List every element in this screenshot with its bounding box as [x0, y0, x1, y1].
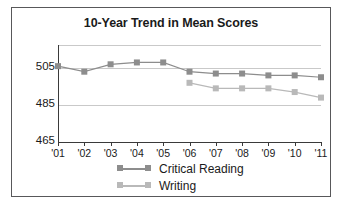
data-point-marker: [213, 85, 219, 91]
series-line: [190, 83, 322, 98]
legend-item[interactable]: Critical Reading: [12, 160, 332, 177]
data-point-marker: [187, 80, 193, 86]
legend-label: Writing: [159, 179, 196, 193]
data-point-marker: [292, 72, 298, 78]
data-point-marker: [81, 69, 87, 75]
data-point-marker: [134, 59, 140, 65]
data-point-marker: [160, 59, 166, 65]
legend-swatch-icon: [117, 181, 151, 190]
data-point-marker: [239, 85, 245, 91]
chart-legend: Critical ReadingWriting: [12, 160, 332, 194]
data-point-marker: [213, 71, 219, 77]
legend-item[interactable]: Writing: [12, 177, 332, 194]
data-point-marker: [265, 72, 271, 78]
data-point-marker: [318, 95, 324, 101]
data-point-marker: [108, 61, 114, 67]
data-point-marker: [55, 63, 61, 69]
data-point-marker: [239, 71, 245, 77]
data-point-marker: [318, 74, 324, 80]
data-point-marker: [265, 85, 271, 91]
legend-label: Critical Reading: [159, 162, 244, 176]
data-point-marker: [187, 69, 193, 75]
legend-swatch-icon: [117, 164, 151, 173]
data-point-marker: [292, 89, 298, 95]
chart-frame: 10-Year Trend in Mean Scores 465485505 '…: [11, 7, 331, 197]
